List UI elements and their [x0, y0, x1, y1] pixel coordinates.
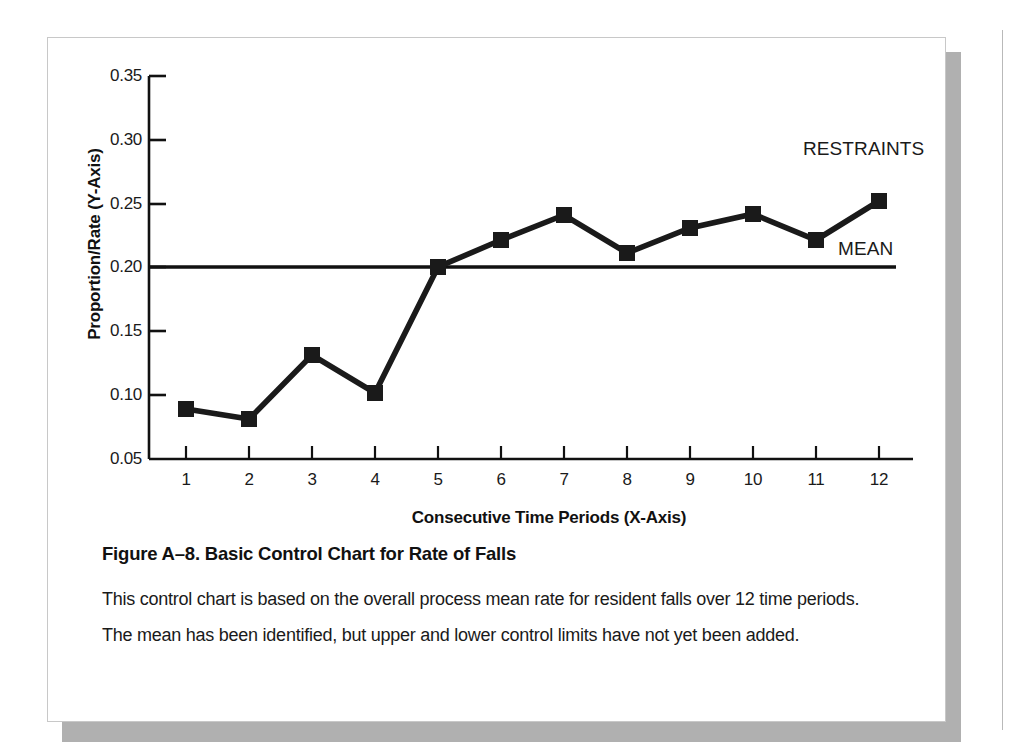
figure-caption: Figure A–8. Basic Control Chart for Rate… — [102, 543, 892, 653]
x-tick-marks — [186, 446, 879, 459]
figure-card: Proportion/Rate (Y-Axis) Consecutive Tim… — [47, 37, 946, 722]
chart-plot-svg — [48, 38, 947, 538]
figure-page: Proportion/Rate (Y-Axis) Consecutive Tim… — [0, 0, 1017, 747]
page-right-rule — [1002, 30, 1003, 730]
figure-caption-body: This control chart is based on the overa… — [102, 581, 892, 653]
y-tick-marks — [149, 76, 166, 395]
figure-caption-title: Figure A–8. Basic Control Chart for Rate… — [102, 543, 892, 565]
restraints-series-line — [186, 201, 879, 419]
control-chart: Proportion/Rate (Y-Axis) Consecutive Tim… — [48, 38, 947, 538]
